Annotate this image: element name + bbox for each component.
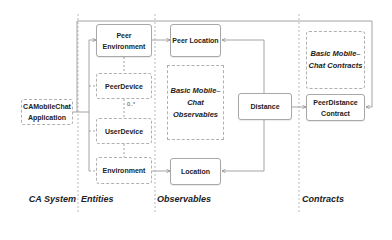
- peer-device-node[interactable]: PeerDevice: [96, 73, 152, 99]
- environment-label: Environment: [103, 165, 146, 176]
- observables-group-node[interactable]: Basic Mobile–Chat Observables: [167, 65, 224, 140]
- application-node[interactable]: CAMobileChat Application: [21, 99, 73, 125]
- user-device-label: UserDevice: [105, 126, 143, 137]
- column-label-contracts: Contracts: [302, 194, 344, 204]
- peer-environment-node[interactable]: Peer Environment: [96, 24, 152, 57]
- location-node[interactable]: Location: [170, 158, 221, 185]
- column-label-entities: Entities: [81, 194, 114, 204]
- column-label-ca-system: CA System: [29, 194, 76, 204]
- application-label: CAMobileChat Application: [22, 101, 72, 123]
- column-label-observables: Observables: [157, 194, 211, 204]
- distance-label: Distance: [250, 101, 279, 112]
- location-label: Location: [181, 166, 210, 177]
- peer-location-label: Peer Location: [172, 35, 218, 46]
- peer-environment-label: Peer Environment: [97, 30, 151, 52]
- peer-device-label: PeerDevice: [105, 81, 143, 92]
- peer-distance-contract-label: PeerDistance Contract: [307, 97, 364, 119]
- user-device-node[interactable]: UserDevice: [96, 118, 152, 144]
- environment-node[interactable]: Environment: [96, 157, 152, 184]
- contracts-group-node[interactable]: Basic Mobile–Chat Contracts: [306, 31, 365, 89]
- peer-distance-contract-node[interactable]: PeerDistance Contract: [306, 94, 365, 121]
- observables-group-label: Basic Mobile–Chat Observables: [168, 85, 223, 121]
- multiplicity-label: 0..*: [127, 101, 135, 107]
- peer-location-node[interactable]: Peer Location: [170, 24, 221, 57]
- contracts-group-label: Basic Mobile–Chat Contracts: [307, 48, 364, 72]
- distance-node[interactable]: Distance: [238, 93, 292, 120]
